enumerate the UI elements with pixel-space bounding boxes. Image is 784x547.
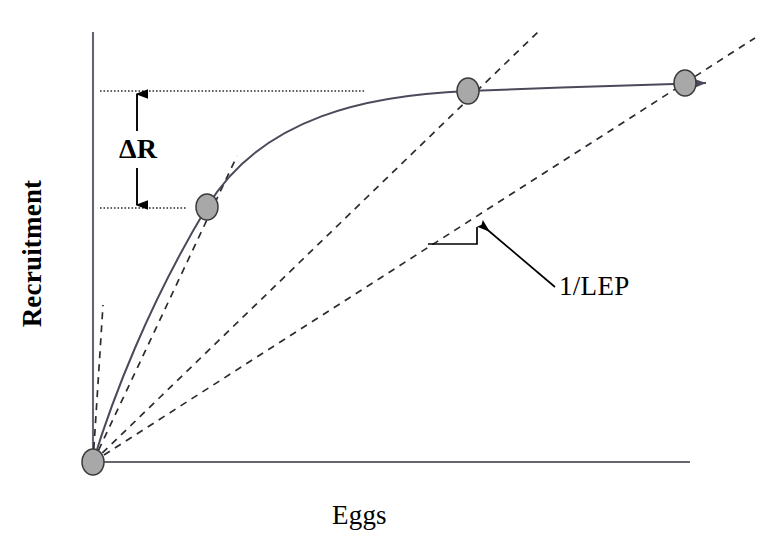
slope-triangle-group (428, 227, 477, 244)
y-axis-title: Recruitment (17, 164, 48, 344)
lep-leader-line (483, 226, 555, 287)
data-point-origin[interactable] (82, 449, 104, 475)
axes-group (93, 32, 690, 463)
stock-recruitment-figure: Recruitment Eggs ΔR 1/LEP (0, 0, 784, 547)
data-point-high[interactable] (674, 70, 696, 96)
data-point-mid[interactable] (457, 78, 479, 104)
lep-label: 1/LEP (559, 271, 630, 302)
lep-leader-group (483, 226, 555, 287)
slope-triangle (428, 227, 477, 244)
figure-canvas (0, 0, 784, 547)
x-axis-title: Eggs (332, 500, 387, 531)
delta-r-label: ΔR (119, 133, 157, 165)
data-point-low[interactable] (196, 194, 218, 220)
